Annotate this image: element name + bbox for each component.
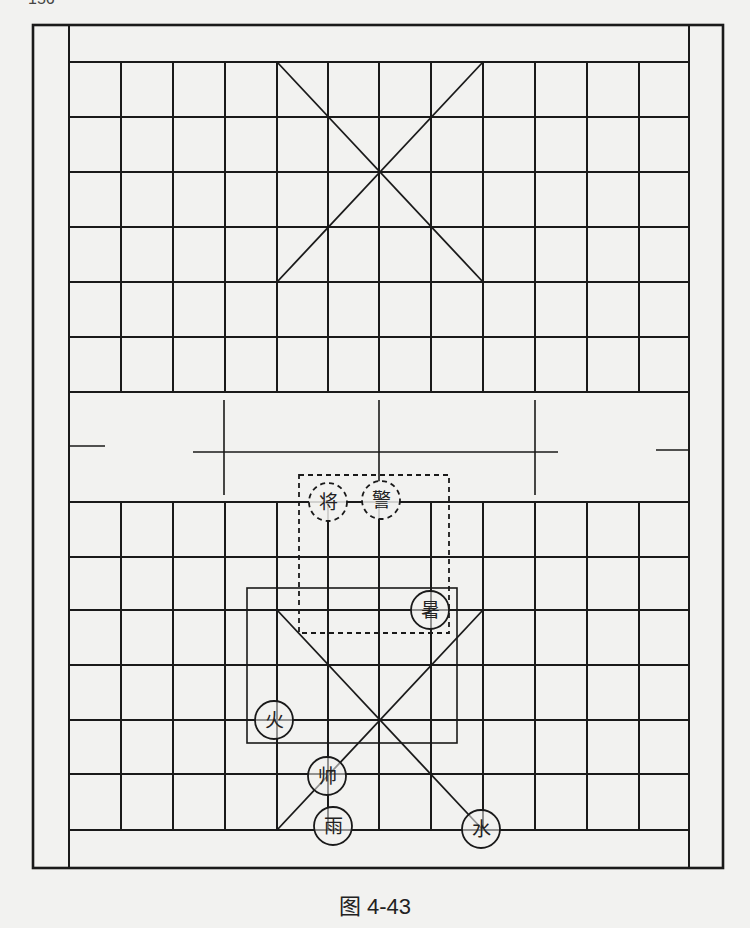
chess-piece: 暑: [411, 591, 449, 629]
board-grid: [33, 25, 723, 868]
chess-piece: 雨: [314, 807, 352, 845]
piece-label: 帅: [318, 765, 337, 787]
chess-piece: 火: [255, 701, 293, 739]
figure-caption: 图 4-43: [0, 888, 750, 920]
piece-label: 暑: [421, 599, 440, 621]
chess-piece: 帅: [308, 757, 346, 795]
piece-label: 雨: [324, 815, 343, 837]
chess-piece: 将: [309, 483, 347, 521]
piece-label: 水: [472, 818, 491, 840]
xiangqi-board-diagram: 将警暑火帅雨水: [0, 0, 750, 928]
piece-label: 将: [319, 491, 338, 513]
chess-piece: 警: [362, 481, 400, 519]
piece-label: 火: [265, 709, 284, 731]
river-area: [69, 400, 689, 495]
piece-label: 警: [372, 489, 391, 511]
chess-piece: 水: [462, 810, 500, 848]
